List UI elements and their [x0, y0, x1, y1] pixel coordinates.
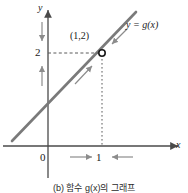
y-tick-label-2: 2	[35, 47, 41, 58]
figure-caption: (b) 함수 g(x)의 그래프	[0, 181, 188, 193]
graph-canvas	[0, 0, 188, 193]
origin-label: 0	[40, 152, 46, 163]
y-axis-label: y	[38, 3, 42, 13]
x-tick-label-1: 1	[96, 152, 102, 163]
point-coordinate-label: (1,2)	[70, 31, 89, 41]
left-limit-arrow-icon	[75, 66, 92, 84]
graph-figure: y x 2 0 1 (1,2) y = g(x) (b) 함수 g(x)의 그래…	[0, 0, 188, 193]
open-circle-marker-icon	[99, 50, 105, 56]
x-axis-label: x	[176, 140, 180, 150]
function-label: y = g(x)	[126, 20, 158, 30]
